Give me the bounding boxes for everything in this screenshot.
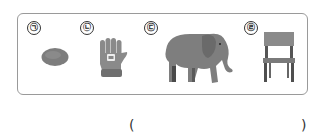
label-c: ㉢ bbox=[144, 21, 158, 35]
elephant-icon bbox=[158, 28, 238, 86]
chair-icon bbox=[262, 31, 296, 83]
label-b: ㉡ bbox=[80, 21, 94, 35]
label-d: ㉣ bbox=[244, 21, 258, 35]
stone-icon bbox=[40, 47, 70, 67]
answer-blank[interactable] bbox=[138, 116, 298, 134]
label-a: ㉠ bbox=[27, 21, 41, 35]
answer-close-paren: ) bbox=[301, 117, 306, 133]
answer-open-paren: ( bbox=[129, 117, 134, 133]
glove-icon bbox=[97, 37, 129, 79]
